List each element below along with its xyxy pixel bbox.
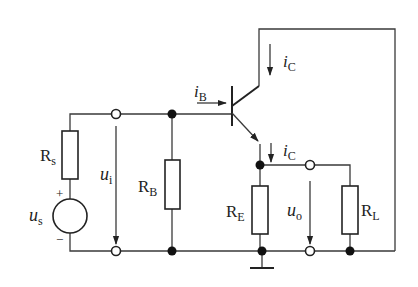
- label-ic-collector: iC: [283, 52, 296, 74]
- circuit-diagram: Rs + − us ui RB iB iC iC RE uo RL: [0, 0, 418, 287]
- junction-dot: [256, 161, 265, 170]
- label-rb: RB: [138, 177, 157, 199]
- input-terminal-bottom: [112, 247, 121, 256]
- transistor-npn: [232, 86, 259, 141]
- voltage-source-icon: [53, 199, 87, 233]
- junction-dot: [168, 110, 177, 119]
- label-rl: RL: [361, 201, 380, 223]
- emitter-arrow-icon: [232, 113, 258, 141]
- junction-dot: [258, 247, 267, 256]
- resistor-rl: [342, 186, 358, 234]
- label-ui: ui: [100, 164, 113, 187]
- label-uo: uo: [287, 200, 302, 223]
- source-plus: +: [56, 186, 63, 201]
- label-us: us: [29, 205, 43, 228]
- resistor-re: [252, 186, 268, 234]
- label-rs: Rs: [40, 146, 56, 168]
- output-terminal-top: [306, 161, 315, 170]
- source-minus: −: [56, 232, 63, 247]
- resistor-rb: [165, 160, 180, 209]
- resistor-rs: [62, 131, 78, 179]
- junction-dot: [168, 247, 177, 256]
- junction-dot: [346, 247, 355, 256]
- input-terminal-top: [112, 110, 121, 119]
- output-terminal-bottom: [306, 247, 315, 256]
- collector-lead: [232, 86, 259, 106]
- label-re: RE: [226, 202, 245, 224]
- label-ic-emitter: iC: [283, 141, 296, 163]
- label-ib: iB: [194, 82, 207, 104]
